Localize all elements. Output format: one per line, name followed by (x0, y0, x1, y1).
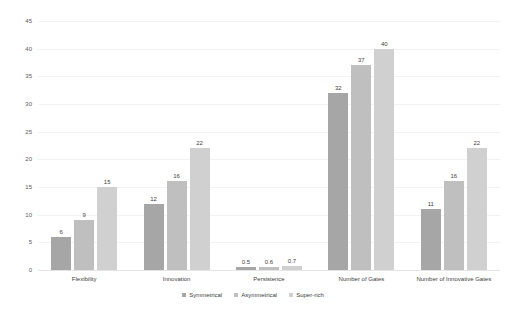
y-tick-label: 10 (25, 212, 32, 218)
x-axis-category-label: Number of Gates (339, 276, 385, 282)
bar-group-bars: 0.50.60.7 (223, 21, 315, 270)
x-axis-category-label: Innovation (163, 276, 191, 282)
y-tick-label: 15 (25, 184, 32, 190)
bar-symmetrical[interactable] (421, 209, 441, 270)
bar-item[interactable]: 0.7 (282, 21, 302, 270)
legend-label: Asymmetrical (241, 292, 277, 298)
x-axis-category-label: Persistence (253, 276, 284, 282)
y-tick-label: 5 (29, 239, 32, 245)
bar-value-label: 12 (150, 196, 157, 202)
chart-legend: SymmetricalAsymmetricalSuper-rich (0, 292, 506, 298)
bar-group: 323740 (315, 21, 407, 270)
y-tick-label: 35 (25, 73, 32, 79)
x-axis-category-label: Flexibility (72, 276, 97, 282)
bar-symmetrical[interactable] (51, 237, 71, 270)
bar-asymmetrical[interactable] (444, 181, 464, 270)
bar-value-label: 0.7 (288, 258, 296, 264)
bar-value-label: 32 (335, 85, 342, 91)
legend-item[interactable]: Asymmetrical (234, 292, 277, 298)
legend-swatch-icon (182, 293, 186, 297)
bar-group-bars: 323740 (315, 21, 407, 270)
bar-group-bars: 6915 (38, 21, 130, 270)
bar-item[interactable]: 9 (74, 21, 94, 270)
bar-super-rich[interactable] (190, 148, 210, 270)
bar-value-label: 16 (450, 173, 457, 179)
y-tick-label: 25 (25, 129, 32, 135)
bar-symmetrical[interactable] (236, 267, 256, 270)
bar-group-bars: 121622 (130, 21, 222, 270)
bar-group-bars: 111622 (408, 21, 500, 270)
bar-asymmetrical[interactable] (74, 220, 94, 270)
bar-symmetrical[interactable] (328, 93, 348, 270)
bar-value-label: 11 (428, 201, 434, 207)
bar-value-label: 40 (381, 41, 388, 47)
bar-item[interactable]: 0.5 (236, 21, 256, 270)
bar-value-label: 22 (196, 140, 203, 146)
bar-group: 111622 (408, 21, 500, 270)
bar-asymmetrical[interactable] (167, 181, 187, 270)
y-tick-label: 30 (25, 101, 32, 107)
grouped-bar-chart: 051015202530354045 69151216220.50.60.732… (0, 0, 506, 313)
legend-swatch-icon (234, 293, 238, 297)
bar-item[interactable]: 6 (51, 21, 71, 270)
bar-group: 121622 (130, 21, 222, 270)
bar-value-label: 9 (83, 212, 86, 218)
legend-swatch-icon (289, 293, 293, 297)
bar-asymmetrical[interactable] (259, 267, 279, 270)
plot-area: 69151216220.50.60.7323740111622 (38, 21, 500, 270)
bar-item[interactable]: 32 (328, 21, 348, 270)
bar-item[interactable]: 0.6 (259, 21, 279, 270)
bar-item[interactable]: 16 (444, 21, 464, 270)
legend-label: Symmetrical (189, 292, 222, 298)
y-tick-label: 45 (25, 18, 32, 24)
x-axis-category-label: Number of Innovative Gates (416, 276, 491, 282)
y-tick-label: 40 (25, 46, 32, 52)
bar-super-rich[interactable] (374, 49, 394, 270)
legend-item[interactable]: Super-rich (289, 292, 324, 298)
bar-value-label: 22 (473, 140, 480, 146)
bar-value-label: 37 (358, 57, 365, 63)
bar-value-label: 15 (104, 179, 111, 185)
bar-value-label: 0.6 (265, 259, 273, 265)
bar-super-rich[interactable] (282, 266, 302, 270)
bar-item[interactable]: 16 (167, 21, 187, 270)
legend-item[interactable]: Symmetrical (182, 292, 222, 298)
bar-super-rich[interactable] (467, 148, 487, 270)
y-axis: 051015202530354045 (0, 0, 38, 313)
bar-value-label: 0.5 (242, 259, 250, 265)
y-tick-label: 20 (25, 156, 32, 162)
bar-item[interactable]: 40 (374, 21, 394, 270)
gridline-0 (38, 270, 500, 271)
bar-super-rich[interactable] (97, 187, 117, 270)
bar-item[interactable]: 11 (421, 21, 441, 270)
bar-asymmetrical[interactable] (351, 65, 371, 270)
bar-item[interactable]: 37 (351, 21, 371, 270)
y-tick-label: 0 (29, 267, 32, 273)
bar-item[interactable]: 15 (97, 21, 117, 270)
bar-symmetrical[interactable] (144, 204, 164, 270)
bar-item[interactable]: 22 (467, 21, 487, 270)
bar-value-label: 6 (60, 229, 63, 235)
bar-group: 6915 (38, 21, 130, 270)
bar-value-label: 16 (173, 173, 180, 179)
legend-label: Super-rich (296, 292, 324, 298)
bar-group: 0.50.60.7 (223, 21, 315, 270)
bar-item[interactable]: 22 (190, 21, 210, 270)
bar-item[interactable]: 12 (144, 21, 164, 270)
